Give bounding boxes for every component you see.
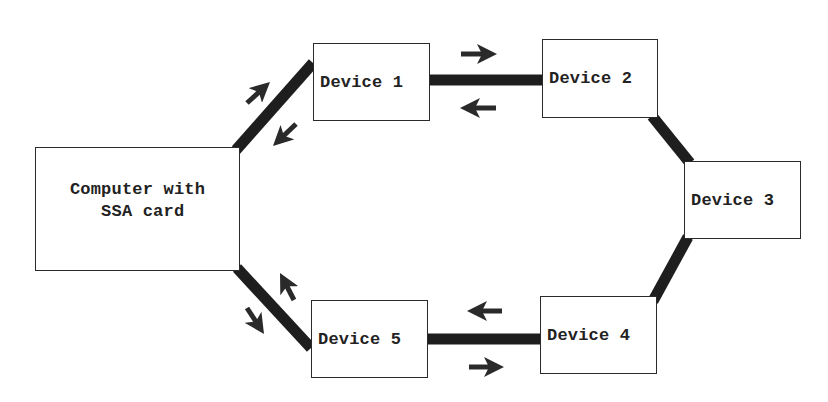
south-west-arrow-icon	[280, 124, 296, 140]
device-3-node: Device 3	[684, 161, 801, 239]
device-2-label: Device 2	[549, 69, 632, 88]
device-1-label: Device 1	[320, 73, 403, 92]
device-3-label: Device 3	[691, 191, 774, 210]
ssa-ring-diagram: Computer with SSA card Device 1 Device 2…	[0, 0, 828, 402]
device-5-label: Device 5	[318, 330, 401, 349]
device-4-label: Device 4	[547, 326, 630, 345]
device-2-node: Device 2	[542, 39, 658, 118]
link-device3-device4	[653, 237, 688, 301]
computer-node: Computer with SSA card	[35, 147, 240, 271]
device-5-node: Device 5	[311, 300, 428, 378]
device-1-node: Device 1	[313, 43, 430, 121]
computer-label: Computer with SSA card	[70, 179, 205, 223]
south-east-arrow-icon	[247, 308, 259, 326]
link-computer-device1	[236, 63, 313, 150]
north-west-arrow-icon	[284, 281, 294, 300]
north-east-arrow-icon	[247, 88, 263, 103]
device-4-node: Device 4	[540, 296, 657, 374]
link-device2-device3	[652, 116, 690, 163]
